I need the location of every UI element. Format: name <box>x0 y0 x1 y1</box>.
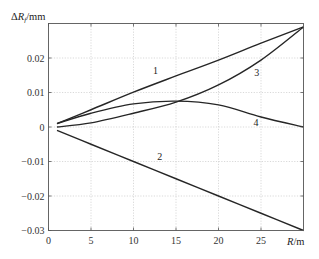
y-tick-label: 0.01 <box>27 87 45 98</box>
curve-label-4: 4 <box>253 117 258 128</box>
x-axis-ticks: 0510152025 <box>46 24 266 246</box>
x-tick-label: 25 <box>256 235 266 246</box>
line-chart: −0.03−0.02−0.0100.010.02 0510152025 1234… <box>0 0 319 259</box>
y-axis-label: ΔRf/mm <box>11 11 45 24</box>
curve-label-3: 3 <box>254 67 259 78</box>
y-tick-label: −0.01 <box>21 156 44 167</box>
curves <box>57 27 304 231</box>
curve-1 <box>57 27 304 124</box>
grid-lines <box>49 24 304 231</box>
y-axis-ticks: −0.03−0.02−0.0100.010.02 <box>21 53 303 237</box>
y-tick-label: 0 <box>40 122 45 133</box>
curve-labels: 1234 <box>153 65 259 162</box>
x-tick-label: 0 <box>46 235 51 246</box>
y-tick-label: −0.03 <box>21 225 44 236</box>
curve-2 <box>57 130 304 230</box>
x-tick-label: 5 <box>89 235 94 246</box>
curve-label-2: 2 <box>157 151 162 162</box>
y-tick-label: −0.02 <box>21 191 44 202</box>
x-tick-label: 15 <box>171 235 181 246</box>
x-tick-label: 20 <box>214 235 224 246</box>
x-tick-label: 10 <box>129 235 139 246</box>
y-tick-label: 0.02 <box>27 53 45 64</box>
curve-4 <box>57 101 304 127</box>
x-axis-label: R/m <box>286 236 305 247</box>
curve-label-1: 1 <box>153 65 158 76</box>
